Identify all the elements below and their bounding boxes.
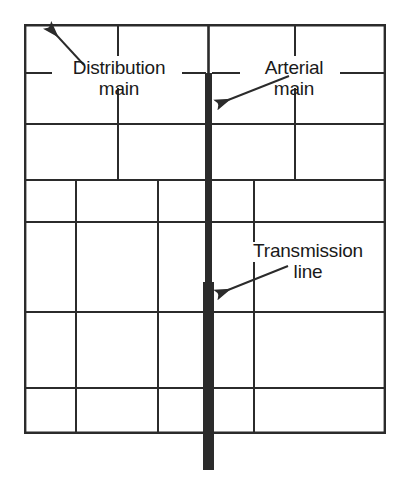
arterial-main-line2: main	[234, 78, 354, 99]
label-arterial-main: Arterial main	[234, 57, 354, 99]
distribution-main-line2: main	[44, 78, 194, 99]
arterial-main-line1: Arterial	[234, 57, 354, 78]
label-transmission-line: Transmission line	[228, 240, 388, 282]
transmission-line-label-line2: line	[228, 261, 388, 282]
transmission-line-label-line1: Transmission	[228, 240, 388, 261]
street-network-diagram: Distribution main Arterial main Transmis…	[0, 0, 406, 487]
label-distribution-main: Distribution main	[44, 57, 194, 99]
distribution-main-line1: Distribution	[44, 57, 194, 78]
